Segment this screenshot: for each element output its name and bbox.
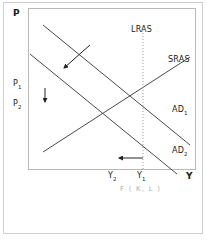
price-tick-p2: P2 [13, 100, 22, 110]
curves-layer [0, 0, 207, 241]
output-tick-y1-sub: 1 [142, 176, 146, 182]
lras-curve-label: LRAS [131, 26, 152, 34]
price-tick-p2-sub: 2 [18, 104, 22, 110]
output-tick-y2: Y2 [108, 172, 117, 182]
ad2-curve-label: AD2 [172, 147, 188, 157]
ad-as-diagram-screenshot: P Y P1 P2 Y2 Y1 LRAS SRAS AD1 AD2 F ( K,… [0, 0, 207, 241]
ad2-curve [30, 54, 177, 174]
sras-curve-label: SRAS [168, 56, 190, 64]
ad2-curve-label-base: AD [172, 146, 184, 155]
ad1-curve-label: AD1 [172, 106, 188, 116]
output-tick-y2-sub: 2 [113, 176, 117, 182]
price-tick-p1: P1 [13, 80, 22, 90]
ad1-curve [43, 25, 190, 145]
ad1-curve-label-base: AD [172, 105, 184, 114]
price-tick-p1-sub: 1 [18, 84, 22, 90]
y-axis-label: P [13, 9, 20, 18]
ad2-curve-label-sub: 2 [184, 151, 188, 157]
x-axis-label: Y [186, 172, 193, 181]
sras-curve [43, 57, 190, 152]
ad1-curve-label-sub: 1 [184, 110, 188, 116]
ad-shift-arrow [64, 45, 90, 68]
production-function-label: F ( K, L ) [120, 186, 161, 193]
output-tick-y1: Y1 [137, 172, 146, 182]
